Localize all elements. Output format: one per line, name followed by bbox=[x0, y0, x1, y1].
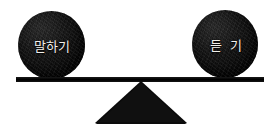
left-weight-circle-icon: 말하기 bbox=[18, 11, 85, 79]
right-weight-circle-icon: 듣 기 bbox=[192, 10, 258, 78]
left-weight-label: 말하기 bbox=[34, 40, 70, 53]
triangle-fulcrum-icon bbox=[95, 81, 187, 124]
fulcrum-shape bbox=[95, 81, 187, 124]
balance-scale-diagram: 말하기 듣 기 bbox=[0, 0, 278, 134]
right-weight-label: 듣 기 bbox=[210, 39, 244, 52]
